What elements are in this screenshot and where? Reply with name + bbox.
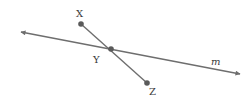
segment-xz	[81, 24, 147, 83]
label-line-m: m	[211, 56, 220, 67]
label-z: Z	[149, 86, 156, 97]
geometry-diagram: X Y Z m	[0, 0, 252, 101]
point-y	[108, 46, 114, 52]
label-y: Y	[92, 54, 100, 65]
label-x: X	[76, 8, 84, 19]
point-x	[78, 21, 84, 27]
point-z	[144, 80, 150, 86]
